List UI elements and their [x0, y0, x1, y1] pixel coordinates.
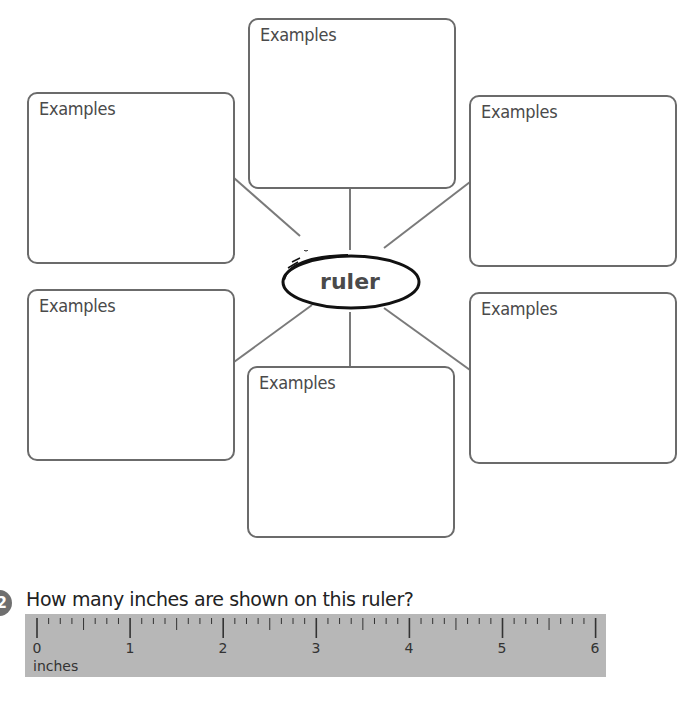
examples-box-upper-right[interactable]: Examples [469, 95, 677, 267]
examples-box-lower-right[interactable]: Examples [469, 292, 677, 464]
ruler-number-5: 5 [498, 640, 507, 656]
ruler-number-3: 3 [312, 640, 321, 656]
examples-label: Examples [39, 98, 115, 119]
examples-label: Examples [481, 101, 557, 122]
examples-label: Examples [260, 24, 336, 45]
ruler-number-4: 4 [405, 640, 414, 656]
ruler: 0 1 2 3 4 5 6 inches [25, 614, 606, 677]
ruler-number-2: 2 [219, 640, 228, 656]
question-text: How many inches are shown on this ruler? [26, 588, 414, 610]
ruler-number-6: 6 [591, 640, 600, 656]
center-oval: ruler [278, 250, 422, 312]
examples-box-lower-left[interactable]: Examples [27, 289, 235, 461]
examples-label: Examples [39, 295, 115, 316]
examples-label: Examples [481, 298, 557, 319]
ruler-number-0: 0 [33, 640, 42, 656]
center-word: ruler [278, 250, 422, 312]
examples-box-top-center[interactable]: Examples [248, 18, 456, 189]
examples-box-upper-left[interactable]: Examples [27, 92, 235, 264]
examples-label: Examples [259, 372, 335, 393]
examples-box-bottom-center[interactable]: Examples [247, 366, 455, 538]
ruler-unit-label: inches [33, 658, 78, 674]
ruler-number-1: 1 [126, 640, 135, 656]
